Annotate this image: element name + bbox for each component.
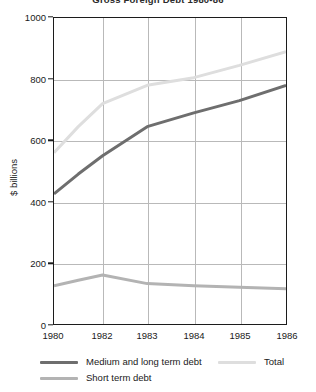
x-axis-tick-label: 1984 [172,330,216,341]
y-axis-tick-label: 400 [2,196,46,207]
legend-swatch [40,361,78,364]
legend-label: Short term debt [86,371,151,385]
y-axis-tick-label: 1000 [2,12,46,23]
x-axis-tick-label: 1980 [31,330,75,341]
legend-swatch [218,361,256,364]
y-axis-tick-label: 200 [2,258,46,269]
y-axis-tick-mark [48,78,53,79]
y-axis-tick-mark [48,16,53,17]
legend-label: Total [264,355,284,369]
legend-label: Medium and long term debt [86,355,202,369]
series-line [54,275,286,289]
x-axis-tick-label: 1985 [218,330,262,341]
x-axis-tick-label: 1986 [265,330,309,341]
legend-swatch [40,377,78,380]
chart-container: Gross Foreign Debt 1980-86 $ billions Me… [0,0,316,392]
y-axis-tick-label: 0 [2,320,46,331]
plot-area [53,17,287,325]
y-axis-tick-mark [48,324,53,325]
y-axis-tick-mark [48,201,53,202]
series-line [54,52,286,153]
chart-title: Gross Foreign Debt 1980-86 [0,0,316,5]
y-axis-tick-mark [48,263,53,264]
chart-legend: Medium and long term debtShort term debt… [0,355,316,392]
x-axis-tick-label: 1982 [80,330,124,341]
y-axis-tick-label: 600 [2,135,46,146]
series-lines [54,18,286,324]
y-axis-tick-mark [48,139,53,140]
y-axis-tick-label: 800 [2,73,46,84]
series-line [54,85,286,194]
x-axis-tick-label: 1983 [125,330,169,341]
